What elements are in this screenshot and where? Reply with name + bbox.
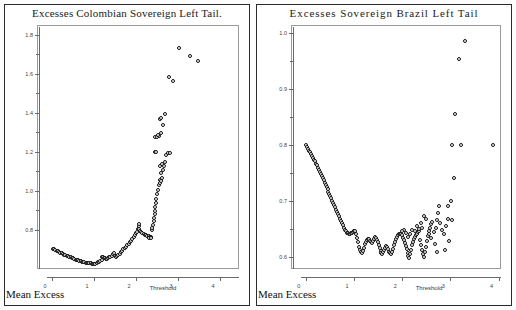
data-point — [434, 226, 438, 230]
data-point — [151, 223, 155, 227]
data-point — [153, 205, 157, 209]
data-point — [418, 238, 422, 242]
data-point — [167, 75, 171, 79]
data-point — [444, 224, 448, 228]
scatter-points-brazil — [257, 5, 511, 305]
data-point — [417, 227, 421, 231]
data-point — [442, 232, 446, 236]
data-point — [428, 226, 432, 230]
data-point — [410, 243, 414, 247]
data-point — [491, 143, 495, 147]
data-point — [154, 201, 158, 205]
data-point — [406, 235, 410, 239]
data-point — [419, 221, 423, 225]
data-point — [356, 240, 360, 244]
data-point — [160, 176, 164, 180]
data-point — [424, 245, 428, 249]
chart-panel-brazil: Excesses Sovereign Brazil Left Tail 0.60… — [256, 4, 512, 306]
data-point — [188, 54, 192, 58]
xaxis-title-brazil: Threshold — [416, 285, 443, 291]
data-point — [154, 197, 158, 201]
data-point — [457, 57, 461, 61]
data-point — [392, 243, 396, 247]
data-point — [407, 256, 411, 260]
data-point — [408, 252, 412, 256]
data-point — [423, 250, 427, 254]
data-point — [422, 255, 426, 259]
data-point — [440, 228, 444, 232]
data-point — [163, 112, 167, 116]
data-point — [420, 226, 424, 230]
data-point — [149, 236, 153, 240]
data-point — [152, 216, 156, 220]
data-point — [436, 211, 440, 215]
data-point — [154, 150, 158, 154]
data-point — [355, 236, 359, 240]
data-point — [153, 212, 157, 216]
data-point — [446, 217, 450, 221]
data-point — [156, 188, 160, 192]
xaxis-title-colombia: Threshold — [150, 285, 177, 291]
data-point — [459, 143, 463, 147]
data-point — [137, 222, 141, 226]
data-point — [424, 217, 428, 221]
data-point — [196, 59, 200, 63]
data-point — [449, 199, 453, 203]
data-point — [432, 230, 436, 234]
scatter-points-colombia — [5, 5, 249, 305]
data-point — [155, 192, 159, 196]
data-point — [419, 243, 423, 247]
data-point — [163, 160, 167, 164]
data-point — [438, 221, 442, 225]
data-point — [161, 123, 165, 127]
data-point — [430, 220, 434, 224]
data-point — [446, 204, 450, 208]
data-point — [433, 242, 437, 246]
data-point — [437, 204, 441, 208]
figure-root: Excesses Colombian Sovereign Left Tail. … — [0, 0, 516, 310]
data-point — [168, 151, 172, 155]
data-point — [443, 248, 447, 252]
data-point — [425, 239, 429, 243]
data-point — [153, 209, 157, 213]
data-point — [391, 247, 395, 251]
data-point — [463, 39, 467, 43]
data-point — [177, 46, 181, 50]
data-point — [410, 228, 414, 232]
data-point — [161, 168, 165, 172]
data-point — [159, 116, 163, 120]
data-point — [447, 239, 451, 243]
data-point — [156, 133, 160, 137]
data-point — [435, 250, 439, 254]
data-point — [362, 246, 366, 250]
data-point — [171, 79, 175, 83]
data-point — [409, 248, 413, 252]
data-point — [429, 236, 433, 240]
chart-panel-colombia: Excesses Colombian Sovereign Left Tail. … — [4, 4, 250, 306]
data-point — [450, 143, 454, 147]
mean-excess-label-left: Mean Excess — [6, 288, 64, 300]
data-point — [450, 218, 454, 222]
mean-excess-label-right: Mean Excess — [258, 288, 316, 300]
data-point — [452, 176, 456, 180]
data-point — [453, 112, 457, 116]
